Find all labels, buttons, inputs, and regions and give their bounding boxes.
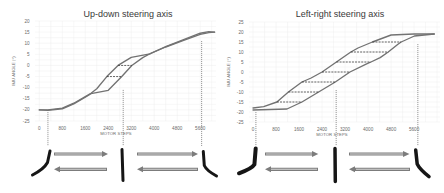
x-tick-label: 4000 (149, 126, 160, 131)
arrow-left-icon (137, 166, 198, 172)
y-axis-title: IMU ANGLE (°) (226, 57, 231, 87)
bent-joint-left-icon (239, 149, 256, 174)
y-tick-label: 25 (238, 20, 244, 25)
x-tick-label: 0 (38, 126, 41, 131)
x-tick-label: 1600 (80, 126, 91, 131)
plot-area: 20151050-5-10-15-20-25080016002400320040… (11, 19, 216, 146)
x-tick-label: 4000 (363, 127, 374, 132)
y-tick-label: -20 (23, 107, 30, 112)
x-tick-label: 4800 (386, 127, 397, 132)
y-tick-label: -25 (237, 120, 244, 125)
y-tick-label: 10 (24, 41, 30, 46)
x-tick-label: 0 (252, 127, 255, 132)
y-tick-label: -20 (237, 110, 244, 115)
y-tick-label: 0 (241, 70, 244, 75)
straight-joint-icon (122, 150, 123, 181)
y-tick-label: -5 (25, 74, 30, 79)
x-axis-title: MOTOR STEPS (316, 132, 348, 137)
y-tick-label: 0 (27, 63, 30, 68)
bent-joint-right-icon (416, 150, 429, 177)
panel-left-right-axis: Left-right steering axis 2520151050-5-10… (222, 0, 444, 193)
gridlines (35, 21, 216, 121)
arrow-right-icon (265, 151, 318, 157)
chart-up-down-steering: 20151050-5-10-15-20-25080016002400320040… (0, 0, 222, 193)
arrow-right-icon (349, 151, 410, 157)
plot-area: 2520151050-5-10-15-20-250800160024003200… (226, 20, 441, 146)
y-tick-label: -10 (237, 90, 244, 95)
arrow-left-icon (265, 166, 318, 172)
x-axis-title: MOTOR STEPS (100, 131, 132, 136)
y-tick-label: 10 (238, 50, 244, 55)
arrow-right-icon (54, 151, 108, 157)
x-tick-label: 800 (58, 126, 66, 131)
x-tick-label: 4800 (172, 126, 183, 131)
y-tick-label: -5 (239, 80, 244, 85)
y-tick-label: 20 (238, 30, 244, 35)
steering-illustration (33, 150, 217, 181)
y-tick-label: 5 (27, 52, 30, 57)
panel-up-down-axis: Up-down steering axis 20151050-5-10-15-2… (0, 0, 222, 193)
y-tick-label: 5 (241, 60, 244, 65)
y-tick-label: -15 (23, 96, 30, 101)
y-tick-label: -15 (237, 100, 244, 105)
x-tick-label: 5600 (195, 126, 206, 131)
y-tick-label: -10 (23, 85, 30, 90)
y-tick-label: 15 (238, 40, 244, 45)
y-tick-label: 20 (24, 19, 30, 24)
x-tick-label: 800 (272, 127, 280, 132)
y-tick-label: 15 (24, 30, 30, 35)
y-tick-label: -25 (23, 119, 30, 124)
chart-left-right-steering: 2520151050-5-10-15-20-250800160024003200… (222, 0, 444, 193)
x-tick-label: 1600 (294, 127, 305, 132)
bent-joint-right-icon (203, 152, 216, 177)
bent-joint-left-icon (33, 151, 51, 175)
arrow-left-icon (349, 166, 410, 172)
y-axis-title: IMU ANGLE (°) (11, 56, 16, 86)
arrow-left-icon (54, 166, 107, 172)
steering-illustration (239, 149, 429, 182)
arrow-right-icon (137, 151, 198, 157)
